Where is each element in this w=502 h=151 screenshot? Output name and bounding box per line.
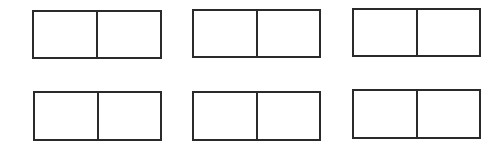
box-4-left-cell [35,93,97,139]
box-3-left-cell [354,10,416,55]
box-2-right-cell [256,11,320,56]
two-cell-box-2 [192,9,321,58]
two-cell-box-3 [352,8,481,57]
box-1-right-cell [96,12,160,57]
box-4-right-cell [97,93,161,139]
box-5-left-cell [194,93,256,139]
box-1-left-cell [34,12,96,57]
two-cell-box-4 [33,91,162,141]
two-cell-box-1 [32,10,162,59]
box-3-right-cell [416,10,480,55]
box-2-left-cell [194,11,256,56]
box-5-right-cell [256,93,320,139]
two-cell-box-6 [352,89,481,139]
box-6-right-cell [416,91,480,137]
two-cell-box-5 [192,91,321,141]
box-6-left-cell [354,91,416,137]
